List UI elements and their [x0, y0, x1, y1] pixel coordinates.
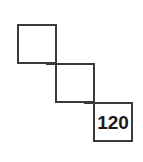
square-top-left[interactable]: [17, 24, 57, 64]
junction-mark-lower-vertical: [93, 93, 95, 111]
square-middle[interactable]: [55, 63, 95, 103]
square-bottom-right-label: 120: [95, 104, 131, 140]
square-top-left-label: [19, 26, 55, 62]
diagram-canvas: 120: [0, 0, 143, 162]
square-middle-label: [57, 65, 93, 101]
junction-mark-upper-vertical: [55, 54, 57, 72]
square-bottom-right[interactable]: 120: [93, 102, 133, 142]
